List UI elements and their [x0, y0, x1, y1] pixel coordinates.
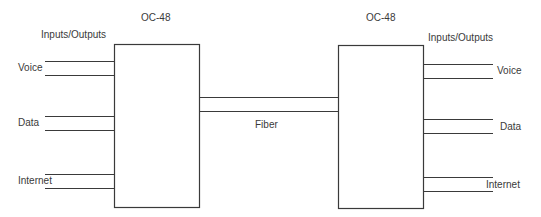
left-internet-lines [45, 175, 115, 189]
right-oc48-box [339, 46, 424, 209]
right-internet-lines [424, 178, 494, 192]
right-node-title: OC-48 [366, 13, 395, 23]
fiber-link-label: Fiber [255, 120, 278, 130]
left-port-internet-label: Internet [18, 176, 52, 186]
right-voice-lines [424, 65, 494, 79]
left-port-data-label: Data [18, 118, 39, 128]
left-node-title: OC-48 [141, 13, 170, 23]
right-port-data-label: Data [500, 122, 521, 132]
left-oc48-box [115, 45, 200, 208]
oc48-diagram: OC-48 Inputs/Outputs Voice Data Internet… [0, 0, 541, 217]
right-io-heading: Inputs/Outputs [428, 33, 493, 43]
right-port-voice-label: Voice [497, 66, 521, 76]
left-data-lines [45, 117, 115, 131]
right-data-lines [424, 120, 494, 134]
fiber-link-lines [200, 98, 339, 112]
left-io-heading: Inputs/Outputs [41, 30, 106, 40]
right-port-internet-label: Internet [486, 180, 520, 190]
left-voice-lines [45, 62, 115, 76]
left-port-voice-label: Voice [18, 63, 42, 73]
